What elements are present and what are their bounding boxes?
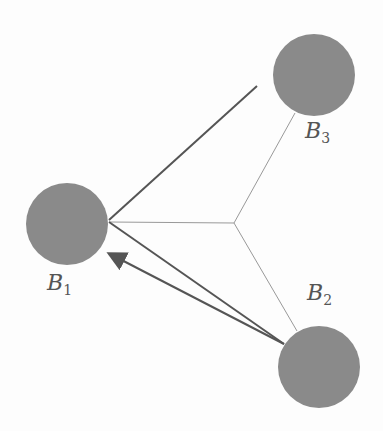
label-b2: B2	[307, 280, 332, 308]
label-b3: B3	[305, 118, 330, 146]
thick-line-b1-b2	[109, 222, 284, 344]
thin-line-b1-junction	[109, 222, 234, 223]
arrow-b2-to-b1	[110, 254, 284, 344]
node-b2	[278, 326, 360, 408]
thick-line-b1-upper	[109, 86, 257, 220]
node-b1	[26, 183, 108, 265]
node-b3	[273, 34, 355, 116]
label-b1: B1	[47, 270, 72, 298]
diagram-svg	[0, 0, 383, 431]
force-diagram: B1 B2 B3	[0, 0, 383, 431]
thin-line-b3-junction	[234, 113, 295, 223]
